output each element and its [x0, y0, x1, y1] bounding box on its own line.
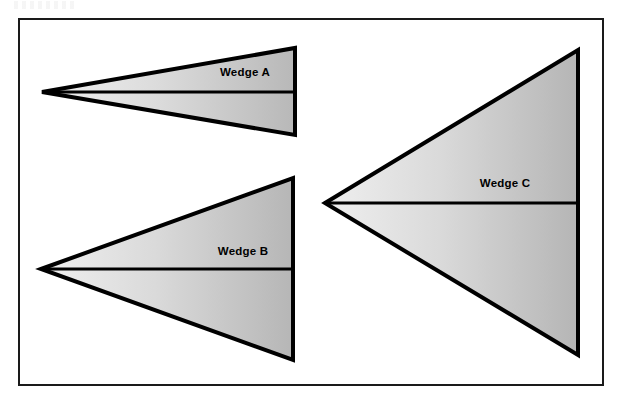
wedge-b-group[interactable]: Wedge B — [41, 178, 293, 360]
wedge-c-label: Wedge C — [480, 177, 530, 189]
diagram-canvas: Wedge A Wedge B Wedge C — [0, 0, 621, 403]
wedge-b-label: Wedge B — [218, 245, 268, 257]
wedge-a-group[interactable]: Wedge A — [42, 48, 295, 135]
wedge-a-label: Wedge A — [220, 66, 270, 78]
wedge-diagram: Wedge A Wedge B Wedge C — [0, 0, 621, 403]
wedge-c-group[interactable]: Wedge C — [325, 50, 578, 355]
